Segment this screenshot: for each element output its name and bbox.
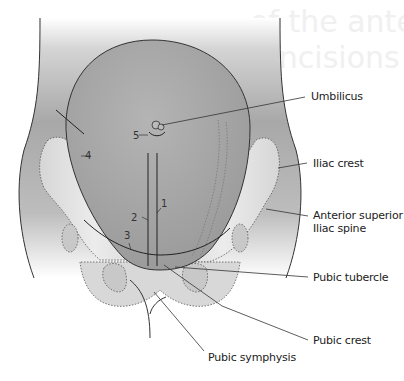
anatomy-diagram <box>0 0 404 381</box>
label-umbilicus: Umbilicus <box>311 90 363 103</box>
incision-number-2: 2 <box>131 212 137 223</box>
incision-number-5: 5 <box>133 130 139 141</box>
incision-number-4: 4 <box>85 150 91 161</box>
left-acetabulum <box>62 224 78 252</box>
incision-number-3: 3 <box>124 230 130 241</box>
label-asis-line2: Iliac spine <box>313 222 366 235</box>
label-pubic-tubercle: Pubic tubercle <box>313 271 388 284</box>
label-iliac-crest: Iliac crest <box>313 157 364 170</box>
right-acetabulum <box>232 224 248 252</box>
right-thigh-crease <box>150 297 166 314</box>
label-pubic-crest: Pubic crest <box>313 334 371 347</box>
label-pubic-symphysis: Pubic symphysis <box>208 351 296 364</box>
incision-number-1: 1 <box>161 198 167 209</box>
label-asis-line1: Anterior superior <box>313 209 403 222</box>
